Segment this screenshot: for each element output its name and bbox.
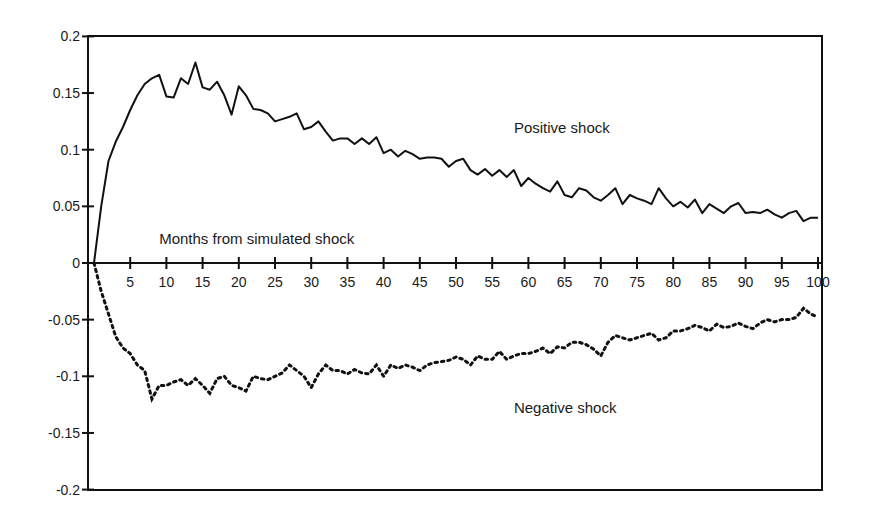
y-tick-label: 0.05 [53,198,80,214]
y-tick-label: 0.15 [53,85,80,101]
y-tick-label: 0.2 [61,28,81,44]
x-tick-label: 15 [195,274,211,290]
x-tick-label: 100 [806,274,830,290]
y-tick-label: -0.05 [48,312,80,328]
x-tick-label: 35 [340,274,356,290]
x-tick-label: 65 [557,274,573,290]
x-tick-label: 60 [521,274,537,290]
x-tick-label: 75 [629,274,645,290]
x-tick-label: 20 [231,274,247,290]
x-tick-label: 45 [412,274,428,290]
x-tick-label: 25 [267,274,283,290]
y-tick-label: 0.1 [61,142,81,158]
x-tick-label: 70 [593,274,609,290]
x-tick-label: 40 [376,274,392,290]
x-tick-label: 95 [774,274,790,290]
x-tick-label: 80 [665,274,681,290]
x-tick-label: 10 [159,274,175,290]
y-tick-label: 0 [72,255,80,271]
x-tick-label: 5 [126,274,134,290]
y-tick-label: -0.2 [56,482,80,498]
y-tick-label: -0.1 [56,368,80,384]
x-tick-label: 30 [303,274,319,290]
x-tick-label: 90 [738,274,754,290]
y-tick-label: -0.15 [48,425,80,441]
x-axis-title: Months from simulated shock [159,230,355,247]
negative-shock-label: Negative shock [514,399,617,416]
x-tick-label: 50 [448,274,464,290]
x-axis: 5101520253035404550556065707580859095100 [88,257,830,290]
positive-shock-label: Positive shock [514,119,610,136]
x-tick-label: 55 [484,274,500,290]
x-tick-label: 85 [702,274,718,290]
impulse-response-chart: 0.20.150.10.050-0.05-0.1-0.15-0.2 510152… [0,0,870,529]
